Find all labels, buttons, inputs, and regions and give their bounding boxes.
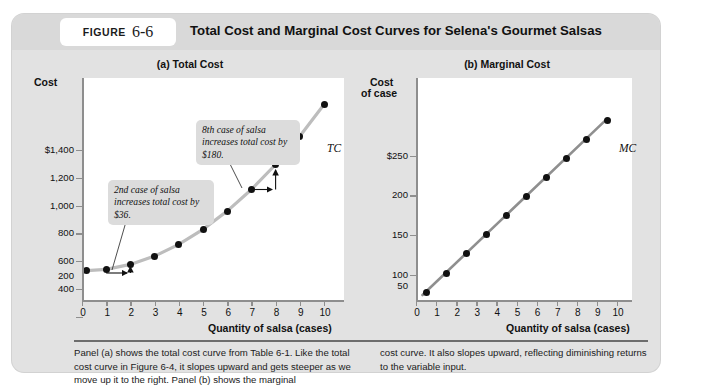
panel-b-x-tick: [456, 300, 457, 306]
panel-a-y-tick-label: $1,400: [20, 144, 74, 155]
figure-badge-word: FIGURE: [83, 26, 126, 38]
panel-a-x-tick-label: 8: [267, 307, 287, 318]
panel-a-x-axis-name: Quantity of salsa (cases): [208, 322, 332, 334]
panel-a-y-tick: [76, 289, 83, 290]
panel-a-x-tick-label: 7: [242, 307, 262, 318]
panel-b-x-tick: [517, 300, 518, 306]
panel-a-x-tick-label: 9: [291, 307, 311, 318]
callout-eighth-case: 8th case of salsa increases total cost b…: [196, 120, 300, 165]
panel-b-y-tick-label: $250: [364, 150, 408, 161]
panel-b-y-tick-label: 200: [364, 189, 408, 200]
caption-divider: [74, 340, 648, 342]
panel-b-x-tick-label: 6: [528, 307, 548, 318]
panel-b-x-tick-label: 3: [467, 307, 487, 318]
panel-a-x-tick: [179, 300, 180, 306]
panel-a-y-tick: [76, 178, 83, 179]
panel-a-x-tick: [106, 300, 107, 306]
panel-b-x-tick-label: 1: [427, 307, 447, 318]
panel-b-x-tick-label: 10: [608, 307, 628, 318]
panel-b-x-tick: [537, 300, 538, 306]
panel-a-y-tick: [76, 150, 83, 151]
panel-a-title: (a) Total Cost: [30, 58, 350, 70]
panel-b-x-tick: [476, 300, 477, 306]
data-point-mc: [604, 117, 611, 124]
panel-a-x-tick: [324, 300, 325, 306]
panel-a-y-axis: [82, 78, 84, 300]
panel-a-y-tick: [76, 233, 83, 234]
panel-b-y-tick-label: 150: [364, 229, 408, 240]
panel-a-x-tick: [82, 300, 83, 306]
panel-a-x-tick-label: 4: [170, 307, 190, 318]
panel-a-x-tick: [300, 300, 301, 306]
panel-a-x-tick: [130, 300, 131, 306]
panel-a-x-tick-label: 3: [146, 307, 166, 318]
panel-a-x-tick-label: 10: [315, 307, 335, 318]
panel-b-x-axis: [416, 300, 632, 302]
data-point-mc: [443, 270, 450, 277]
panel-b-x-tick-label: 7: [548, 307, 568, 318]
panel-b-x-tick: [436, 300, 437, 306]
figure-number-badge: FIGURE 6-6: [60, 18, 176, 46]
data-point-mc: [423, 289, 430, 296]
panel-a-x-tick: [276, 300, 277, 306]
figure-badge-number: 6-6: [132, 23, 153, 41]
panel-b-x-tick: [577, 300, 578, 306]
panel-b-y-axis: [416, 78, 418, 300]
caption-left-column: Panel (a) shows the total cost curve fro…: [74, 346, 352, 386]
callout-second-case: 2nd case of salsa increases total cost b…: [108, 180, 214, 225]
panel-b-y-tick: [410, 235, 417, 236]
figure-header: FIGURE 6-6 Total Cost and Marginal Cost …: [12, 14, 660, 50]
panel-a-y-tick-label-200: 200: [20, 270, 74, 281]
panel-a-y-tick-label: 400: [20, 283, 74, 294]
figure-card: FIGURE 6-6 Total Cost and Marginal Cost …: [12, 14, 660, 372]
panel-b-y-tick: [410, 195, 417, 196]
panel-a-y-tick-label: 1,200: [20, 172, 74, 183]
panel-b-y-tick-label: 100: [364, 269, 408, 280]
panel-b-x-tick: [416, 300, 417, 306]
panel-a-x-tick: [251, 300, 252, 306]
panel-b-x-tick-label: 8: [568, 307, 588, 318]
panel-a-x-tick-label: 6: [218, 307, 238, 318]
figure-title: Total Cost and Marginal Cost Curves for …: [190, 23, 602, 38]
mc-curve-label: MC: [619, 142, 636, 154]
caption-right-column: cost curve. It also slopes upward, refle…: [380, 346, 652, 373]
panel-b-x-tick-label: 4: [487, 307, 507, 318]
panel-a-x-tick-label: 2: [121, 307, 141, 318]
panel-b-y-tick: [410, 156, 417, 157]
panel-b-x-tick-label: 2: [447, 307, 467, 318]
panel-b-title: (b) Marginal Cost: [362, 58, 652, 70]
panel-b-x-tick: [617, 300, 618, 306]
panel-b-x-tick: [496, 300, 497, 306]
panel-a-y-tick-label: 800: [20, 227, 74, 238]
panel-a-x-tick-label: 5: [194, 307, 214, 318]
panel-a-y-tick-label: 1,000: [20, 200, 74, 211]
panel-a-y-tick: [76, 261, 83, 262]
panel-a-y-tick: [76, 206, 83, 207]
panel-a-y-tick-label: 600: [20, 255, 74, 266]
panel-a-x-tick-label: 0: [73, 307, 93, 318]
panel-a-x-tick: [227, 300, 228, 306]
panel-b-y-tick-label-50: 50: [364, 280, 408, 291]
panel-b-x-tick: [557, 300, 558, 306]
panel-a-x-tick-label: 1: [97, 307, 117, 318]
panel-a-y-axis-label: Cost: [34, 76, 57, 88]
panel-b-x-tick-label: 0: [407, 307, 427, 318]
panel-b-y-axis-label-2: of case: [361, 87, 397, 99]
panel-b-x-axis-name: Quantity of salsa (cases): [506, 322, 630, 334]
panel-a-x-axis: [82, 300, 344, 302]
panel-b-chart: [416, 78, 632, 300]
panel-a-x-tick: [203, 300, 204, 306]
panel-b-y-tick: [410, 275, 417, 276]
panel-b-x-tick: [597, 300, 598, 306]
panel-b-x-tick-label: 5: [508, 307, 528, 318]
panel-b-x-tick-label: 9: [588, 307, 608, 318]
panel-a-x-tick: [155, 300, 156, 306]
